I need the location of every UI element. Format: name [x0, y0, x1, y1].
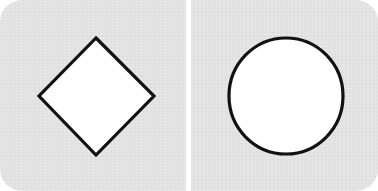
shape-comparison-strip	[0, 0, 378, 191]
right-panel	[191, 0, 378, 191]
diamond-icon	[0, 0, 186, 191]
left-panel	[0, 0, 186, 191]
circle-icon	[191, 0, 378, 191]
diamond-shape	[39, 38, 154, 155]
circle-shape	[229, 38, 343, 154]
